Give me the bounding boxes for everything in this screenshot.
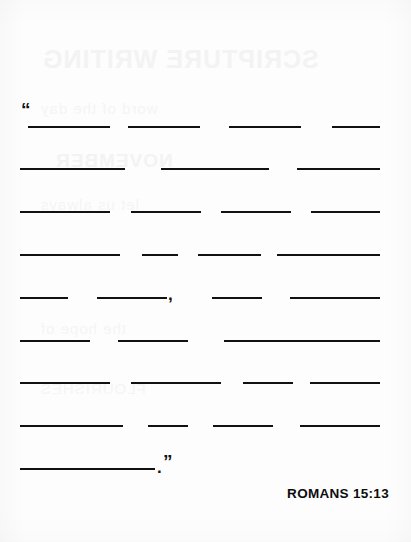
answer-blank[interactable] [28, 126, 110, 128]
blank-line-row [0, 322, 411, 342]
answer-blank[interactable] [20, 425, 123, 427]
blank-line-row [0, 150, 411, 170]
answer-blank[interactable] [332, 126, 380, 128]
answer-blank[interactable] [224, 340, 380, 342]
answer-blank[interactable] [243, 382, 293, 384]
answer-blank[interactable] [128, 126, 200, 128]
blank-line-row [0, 407, 411, 427]
answer-blank[interactable] [97, 297, 167, 299]
blank-line-row: , [0, 279, 411, 299]
answer-blank[interactable] [198, 254, 261, 256]
showthrough-title: SCRIPTURE WRITING [42, 45, 319, 74]
closing-quote-mark: ” [163, 452, 172, 471]
worksheet-page: SCRIPTURE WRITING NOVEMBER word of the d… [0, 0, 411, 542]
answer-blank[interactable] [131, 211, 201, 213]
blank-line-row [0, 236, 411, 256]
answer-blank[interactable] [20, 297, 68, 299]
blank-line-row [0, 450, 411, 470]
ending-period: . [157, 459, 162, 476]
answer-blank[interactable] [20, 340, 90, 342]
answer-blank[interactable] [297, 168, 380, 170]
answer-blank[interactable] [20, 468, 155, 470]
answer-blank[interactable] [161, 168, 269, 170]
answer-blank[interactable] [20, 254, 120, 256]
scripture-citation: ROMANS 15:13 [287, 486, 389, 501]
answer-blank[interactable] [118, 340, 188, 342]
blank-line-row [0, 193, 411, 213]
answer-blank[interactable] [212, 297, 262, 299]
answer-blank[interactable] [213, 425, 273, 427]
answer-blank[interactable] [277, 254, 380, 256]
answer-blank[interactable] [131, 382, 221, 384]
answer-blank[interactable] [20, 382, 110, 384]
answer-blank[interactable] [142, 254, 178, 256]
answer-blank[interactable] [300, 425, 380, 427]
answer-blank[interactable] [20, 168, 125, 170]
answer-blank[interactable] [148, 425, 188, 427]
answer-blank[interactable] [20, 211, 110, 213]
answer-blank[interactable] [290, 297, 380, 299]
answer-blank[interactable] [221, 211, 291, 213]
blank-line-row [0, 364, 411, 384]
inline-punctuation: , [168, 286, 173, 303]
answer-blank[interactable] [311, 211, 380, 213]
answer-blank[interactable] [310, 382, 380, 384]
blank-line-row [0, 108, 411, 128]
answer-blank[interactable] [229, 126, 301, 128]
